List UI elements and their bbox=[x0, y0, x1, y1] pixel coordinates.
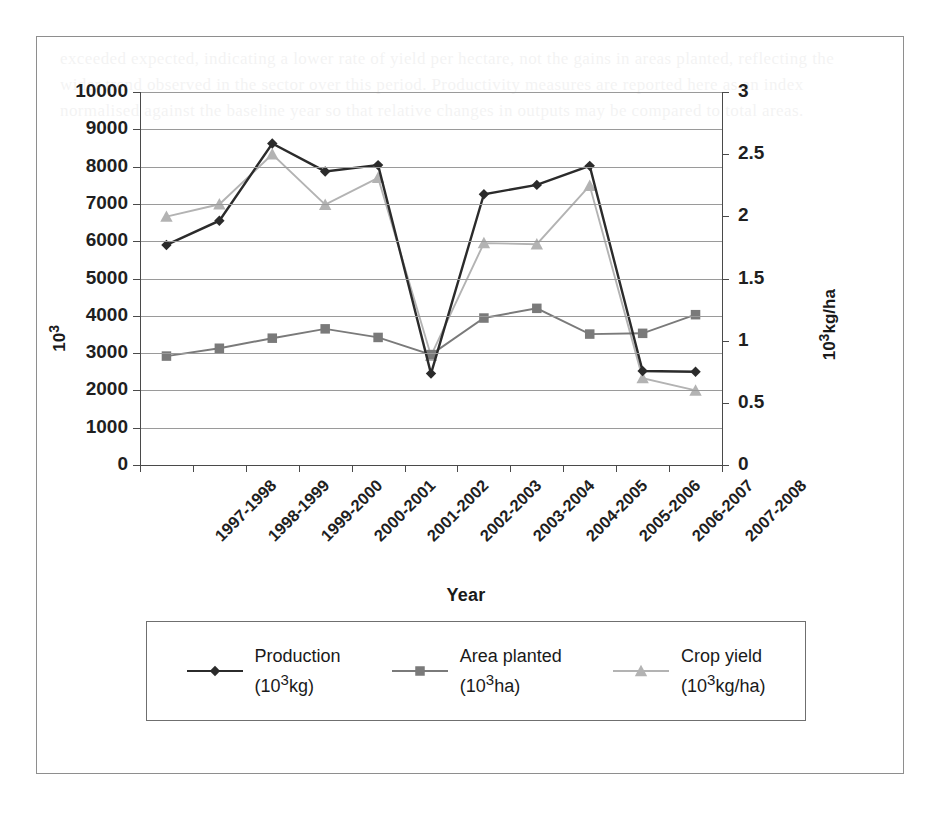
x-axis-tick bbox=[563, 465, 564, 472]
data-point-diamond bbox=[320, 166, 330, 176]
data-point-diamond bbox=[532, 180, 542, 190]
y-axis-left-tick bbox=[133, 92, 140, 93]
x-axis-tick bbox=[193, 465, 194, 472]
y-axis-right-ticklabel: 0 bbox=[738, 453, 798, 475]
data-point-square bbox=[479, 313, 489, 323]
legend-marker-glyph bbox=[392, 663, 448, 679]
y-axis-right-title: 103kg/ha bbox=[816, 316, 841, 360]
y-axis-left-tick bbox=[133, 390, 140, 391]
gridline bbox=[140, 428, 722, 429]
y-axis-right-tick bbox=[722, 403, 729, 404]
x-axis-tick bbox=[405, 465, 406, 472]
y-axis-left-tick bbox=[133, 129, 140, 130]
gridline bbox=[140, 167, 722, 168]
gridline bbox=[140, 316, 722, 317]
y-axis-right-tick bbox=[722, 341, 729, 342]
gridline bbox=[140, 390, 722, 391]
data-point-square bbox=[320, 324, 330, 334]
legend-item-production[interactable]: Production(103kg) bbox=[187, 645, 341, 698]
x-axis-tick bbox=[457, 465, 458, 472]
legend-label-name: Production bbox=[255, 645, 341, 668]
data-point-diamond bbox=[209, 666, 219, 676]
x-axis-tick bbox=[616, 465, 617, 472]
gridline bbox=[140, 204, 722, 205]
y-axis-right bbox=[722, 92, 723, 467]
y-axis-right-ticklabel: 3 bbox=[738, 80, 798, 102]
legend-label: Crop yield(103kg/ha) bbox=[681, 645, 765, 698]
x-axis-tick bbox=[722, 465, 723, 472]
legend-marker-diamond-icon bbox=[187, 663, 243, 679]
x-axis bbox=[140, 465, 723, 466]
chart-container: 0100020003000400050006000700080009000100… bbox=[36, 36, 904, 774]
y-axis-left-tick bbox=[133, 465, 140, 466]
data-point-diamond bbox=[426, 368, 436, 378]
legend-label-name: Area planted bbox=[460, 645, 562, 668]
gridline bbox=[140, 279, 722, 280]
plot-area bbox=[140, 92, 722, 465]
y-axis-left bbox=[140, 92, 141, 467]
x-axis-tick bbox=[140, 465, 141, 472]
y-axis-left-tick bbox=[133, 353, 140, 354]
data-point-square bbox=[415, 666, 425, 676]
legend-marker-square-icon bbox=[392, 663, 448, 679]
x-axis-tick bbox=[669, 465, 670, 472]
gridline bbox=[140, 129, 722, 130]
data-point-square bbox=[638, 329, 648, 339]
data-point-square bbox=[268, 333, 278, 343]
y-axis-left-ticklabel: 5000 bbox=[44, 267, 128, 289]
x-axis-tick bbox=[352, 465, 353, 472]
legend-marker-triangle-icon bbox=[613, 663, 669, 679]
legend-label: Production(103kg) bbox=[255, 645, 341, 698]
y-axis-left-ticklabel: 10000 bbox=[44, 80, 128, 102]
data-point-square bbox=[585, 329, 595, 339]
y-axis-right-tick bbox=[722, 465, 729, 466]
legend-marker-glyph bbox=[187, 663, 243, 679]
data-point-square bbox=[532, 304, 542, 314]
y-axis-left-ticklabel: 9000 bbox=[44, 117, 128, 139]
y-axis-right-ticklabel: 2 bbox=[738, 204, 798, 226]
y-axis-right-tick bbox=[722, 279, 729, 280]
y-axis-left-ticklabel: 8000 bbox=[44, 155, 128, 177]
y-axis-left-tick bbox=[133, 428, 140, 429]
y-axis-left-ticklabel: 7000 bbox=[44, 192, 128, 214]
y-axis-left-ticklabel: 1000 bbox=[44, 416, 128, 438]
legend-label-units: (103kg/ha) bbox=[681, 668, 765, 698]
data-point-square bbox=[691, 310, 701, 320]
y-axis-left-tick bbox=[133, 204, 140, 205]
gridline bbox=[140, 92, 722, 93]
data-point-triangle bbox=[635, 665, 647, 676]
y-axis-left-title: 103 bbox=[46, 318, 71, 358]
data-point-square bbox=[215, 344, 225, 354]
y-axis-right-ticklabel: 2.5 bbox=[738, 142, 798, 164]
y-axis-right-ticklabel: 1 bbox=[738, 329, 798, 351]
y-axis-left-ticklabel: 6000 bbox=[44, 229, 128, 251]
legend-label: Area planted(103ha) bbox=[460, 645, 562, 698]
legend: Production(103kg)Area planted(103ha)Crop… bbox=[146, 621, 806, 721]
y-axis-right-ticklabel: 0.5 bbox=[738, 391, 798, 413]
data-point-diamond bbox=[690, 367, 700, 377]
data-point-diamond bbox=[373, 160, 383, 170]
legend-item-crop-yield[interactable]: Crop yield(103kg/ha) bbox=[613, 645, 765, 698]
y-axis-right-tick bbox=[722, 154, 729, 155]
y-axis-right-tick bbox=[722, 92, 729, 93]
y-axis-left-tick bbox=[133, 316, 140, 317]
legend-item-area-planted[interactable]: Area planted(103ha) bbox=[392, 645, 562, 698]
y-axis-left-ticklabel: 2000 bbox=[44, 378, 128, 400]
y-axis-left-tick bbox=[133, 241, 140, 242]
legend-label-name: Crop yield bbox=[681, 645, 765, 668]
y-axis-left-tick bbox=[133, 279, 140, 280]
data-point-square bbox=[373, 333, 383, 343]
gridline bbox=[140, 353, 722, 354]
legend-label-units: (103kg) bbox=[255, 668, 341, 698]
y-axis-left-tick bbox=[133, 167, 140, 168]
y-axis-right-tick bbox=[722, 216, 729, 217]
y-axis-left-ticklabel: 0 bbox=[44, 453, 128, 475]
data-point-diamond bbox=[479, 189, 489, 199]
x-axis-tick bbox=[299, 465, 300, 472]
legend-label-units: (103ha) bbox=[460, 668, 562, 698]
legend-marker-glyph bbox=[613, 663, 669, 679]
x-axis-title: Year bbox=[366, 585, 566, 606]
gridline bbox=[140, 241, 722, 242]
x-axis-tick bbox=[246, 465, 247, 472]
y-axis-right-ticklabel: 1.5 bbox=[738, 267, 798, 289]
